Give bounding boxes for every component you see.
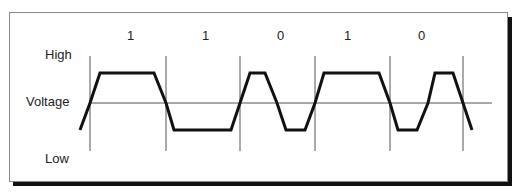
bit-label: 0 [418, 29, 425, 42]
signal-diagram: High Voltage Low 1 1 0 1 0 [0, 0, 519, 194]
frame-border [10, 13, 508, 182]
bit-label: 1 [127, 29, 134, 42]
bit-label: 1 [202, 29, 209, 42]
label-high: High [45, 48, 72, 61]
frame-shadow-bottom [13, 182, 512, 186]
label-voltage: Voltage [26, 95, 69, 108]
diagram-canvas [0, 0, 519, 194]
label-low: Low [45, 152, 69, 165]
bit-label: 1 [344, 29, 351, 42]
bit-label: 0 [277, 29, 284, 42]
frame-shadow-right [508, 17, 512, 185]
